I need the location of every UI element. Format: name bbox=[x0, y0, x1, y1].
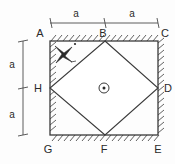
left-dimension: a a bbox=[9, 40, 28, 136]
cross-mark-icon bbox=[55, 43, 76, 63]
figure-canvas: a a a a bbox=[0, 0, 175, 164]
vertex-label-H: H bbox=[34, 82, 42, 94]
vertex-label-G: G bbox=[44, 143, 53, 155]
vertex-label-C: C bbox=[161, 27, 169, 39]
geometry-figure: a a a a bbox=[0, 0, 175, 164]
left-dimension-label-bottom: a bbox=[9, 109, 15, 120]
vertex-label-B: B bbox=[99, 27, 106, 39]
vertex-label-D: D bbox=[164, 82, 172, 94]
hatch-bottom bbox=[52, 135, 159, 141]
vertex-label-E: E bbox=[154, 143, 161, 155]
left-dimension-label-top: a bbox=[9, 59, 15, 70]
top-dimension-label-right: a bbox=[129, 8, 135, 19]
vertex-label-F: F bbox=[101, 143, 108, 155]
top-dimension: a a bbox=[50, 8, 159, 28]
top-dimension-label-left: a bbox=[73, 8, 79, 19]
vertex-label-A: A bbox=[36, 27, 44, 39]
